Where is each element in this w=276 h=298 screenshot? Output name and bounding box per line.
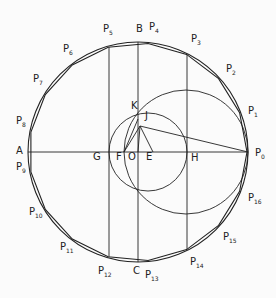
diagram-canvas xyxy=(0,0,276,298)
label-P8: P8 xyxy=(16,116,26,128)
label-P10: P10 xyxy=(29,207,43,219)
label-P1: P1 xyxy=(248,106,258,118)
label-K: K xyxy=(131,101,138,111)
label-G: G xyxy=(93,152,101,162)
label-P3: P3 xyxy=(191,34,201,46)
label-P15: P15 xyxy=(223,232,237,244)
label-P9: P9 xyxy=(16,162,26,174)
segment-J-P0 xyxy=(140,126,248,152)
label-P14: P14 xyxy=(190,257,204,269)
label-A: A xyxy=(16,146,23,156)
segment-J-E xyxy=(140,126,153,152)
label-E: E xyxy=(146,152,152,162)
label-P2: P2 xyxy=(226,64,236,76)
label-P0: P0 xyxy=(255,148,265,160)
label-F: F xyxy=(116,152,122,162)
label-H: H xyxy=(191,153,199,163)
label-P11: P11 xyxy=(60,242,74,254)
label-P16: P16 xyxy=(248,193,262,205)
label-J: J xyxy=(145,111,148,121)
label-P13: P13 xyxy=(145,270,159,282)
label-P7: P7 xyxy=(33,74,43,86)
label-O: O xyxy=(128,152,136,162)
label-P5: P5 xyxy=(103,24,113,36)
label-P12: P12 xyxy=(98,266,112,278)
label-C: C xyxy=(133,266,140,276)
label-P6: P6 xyxy=(63,44,73,56)
label-P4: P4 xyxy=(149,22,159,34)
label-B: B xyxy=(136,24,143,34)
heptadecagon-diagram: A B C G F O E H J K P0 P1 P2 P3 P4 P5 P6… xyxy=(0,0,276,298)
